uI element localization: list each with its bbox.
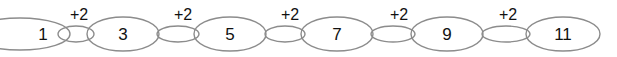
- term-label: 1: [38, 25, 47, 44]
- term-label: 9: [442, 25, 451, 44]
- term-label: 5: [225, 25, 234, 44]
- link-ellipse-1: [58, 26, 94, 42]
- link-ellipse-4: [371, 26, 415, 42]
- term-ellipse-1: [0, 18, 70, 50]
- term-label: 3: [118, 25, 127, 44]
- term-label: 7: [332, 25, 341, 44]
- link-ellipse-3: [265, 26, 305, 42]
- step-label: +2: [390, 6, 408, 23]
- step-label: +2: [70, 6, 88, 23]
- sequence-diagram: 1 3 5 7 9 11 +2 +2 +2 +2 +2: [0, 0, 617, 57]
- step-label: +2: [281, 6, 299, 23]
- link-ellipse-5: [482, 26, 530, 42]
- link-ellipse-2: [157, 26, 199, 42]
- step-label: +2: [174, 6, 192, 23]
- step-label: +2: [499, 6, 517, 23]
- term-label: 11: [554, 25, 572, 44]
